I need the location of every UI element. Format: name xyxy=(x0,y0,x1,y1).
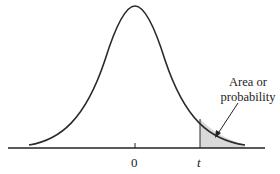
t-distribution-diagram: 0 t Area or probability xyxy=(0,0,280,174)
annotation-arrow xyxy=(217,103,238,135)
annotation-line-2: probability xyxy=(218,90,278,105)
tick-label-zero: 0 xyxy=(131,156,138,169)
annotation-label: Area or probability xyxy=(218,75,278,105)
tick-label-t: t xyxy=(197,156,201,169)
annotation-line-1: Area or xyxy=(218,75,278,90)
density-curve xyxy=(29,6,245,145)
